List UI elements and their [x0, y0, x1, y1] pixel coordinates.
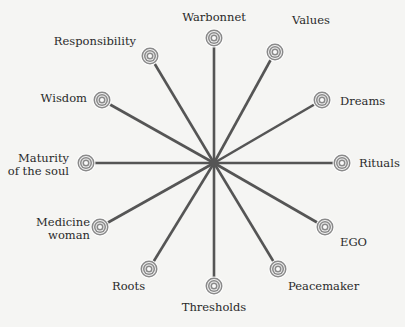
label-wisdom: Wisdom [41, 92, 87, 105]
label-maturity: Maturity of the soul [8, 152, 69, 178]
label-peacemaker: Peacemaker [288, 280, 359, 293]
label-thresholds: Thresholds [182, 301, 247, 314]
target-node-icon-thresholds [205, 277, 224, 296]
spoke-peacemaker [214, 163, 278, 269]
label-rituals: Rituals [359, 157, 400, 170]
spoke-responsibility [150, 56, 214, 163]
target-node-icon-roots [140, 260, 159, 279]
target-node-icon-peacemaker [269, 260, 288, 279]
spoke-ego [214, 163, 325, 227]
target-node-icon-ego [316, 218, 335, 237]
target-node-icon-wisdom [93, 91, 112, 110]
label-responsibility: Responsibility [54, 35, 136, 48]
target-node-icon-warbonnet [205, 29, 224, 48]
hub [210, 159, 218, 167]
label-medicine-woman-line2: woman [36, 229, 90, 242]
spoke-roots [149, 163, 214, 269]
target-node-icon-values [266, 43, 285, 62]
target-node-icon-dreams [313, 91, 332, 110]
label-roots: Roots [112, 280, 145, 293]
label-values: Values [292, 14, 330, 27]
label-maturity-line2: of the soul [8, 165, 69, 178]
target-node-icon-medicine-woman [91, 218, 110, 237]
radial-diagram: Warbonnet Values Dreams Rituals EGO Peac… [0, 0, 405, 327]
label-dreams: Dreams [340, 95, 385, 108]
target-node-icon-rituals [333, 154, 352, 173]
target-node-icon-responsibility [141, 47, 160, 66]
label-medicine-woman: Medicine woman [36, 216, 90, 242]
spoke-medicine-woman [100, 163, 214, 227]
label-ego: EGO [340, 236, 367, 249]
label-warbonnet: Warbonnet [182, 11, 246, 24]
spoke-wisdom [102, 100, 214, 163]
target-node-icon-maturity [77, 154, 96, 173]
